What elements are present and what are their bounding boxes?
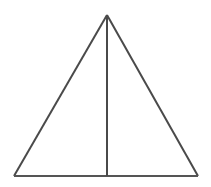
figure-canvas xyxy=(0,0,211,187)
diagram-background xyxy=(0,0,211,187)
triangle-diagram xyxy=(0,0,211,187)
